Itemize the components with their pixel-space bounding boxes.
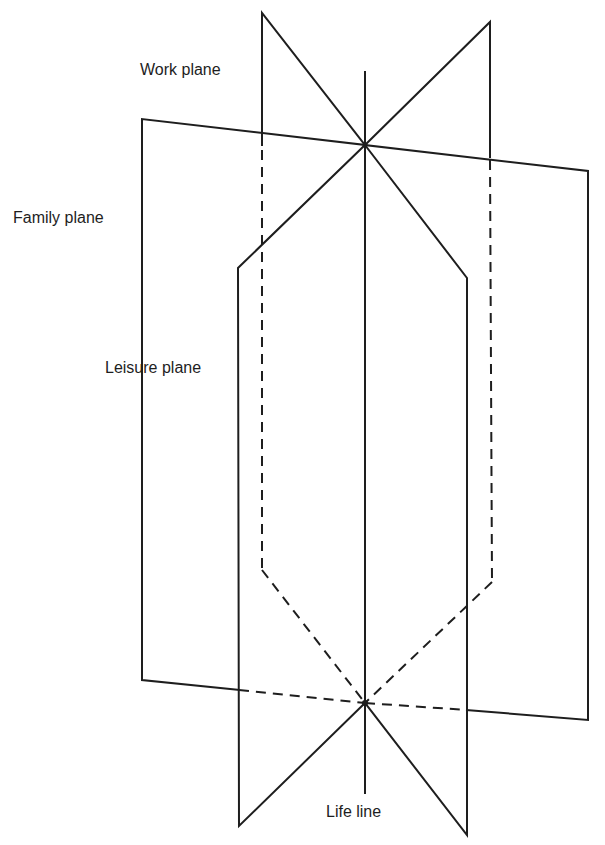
life-line-label: Life line [326, 804, 381, 820]
leisure-plane [238, 145, 467, 835]
work-plane-label: Work plane [140, 62, 221, 78]
leisure-plane-label: Leisure plane [105, 360, 201, 376]
work-plane [262, 13, 492, 703]
upper-intersection-point [363, 143, 368, 148]
family-plane-label: Family plane [13, 210, 104, 226]
life-planes-diagram [0, 0, 605, 845]
lower-intersection-point [362, 700, 368, 706]
